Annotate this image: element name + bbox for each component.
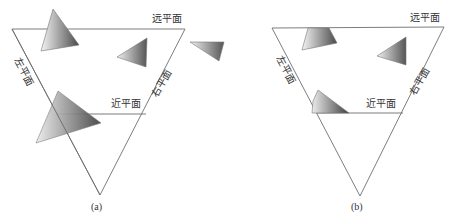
left-plane-label-a: 左平面 bbox=[12, 55, 37, 87]
right-plane-label-a: 右平面 bbox=[148, 67, 173, 99]
frustum-a bbox=[12, 29, 185, 195]
triangle-far-crossing bbox=[41, 9, 79, 51]
far-plane-label-b: 远平面 bbox=[410, 12, 440, 23]
left-plane-label-b: 左平面 bbox=[274, 53, 299, 85]
near-plane-label-b: 近平面 bbox=[366, 97, 396, 109]
caption-a: (a) bbox=[91, 201, 102, 213]
triangle-inside-b bbox=[377, 37, 406, 65]
far-plane-label-a: 远平面 bbox=[152, 13, 182, 24]
clipped-triangle-far bbox=[302, 28, 337, 50]
right-plane-label-b: 右平面 bbox=[406, 65, 431, 97]
caption-b: (b) bbox=[351, 201, 363, 213]
panel-a: 远平面 近平面 左平面 右平面 (a) bbox=[12, 9, 224, 213]
near-plane-label-a: 近平面 bbox=[111, 97, 141, 109]
triangle-outside-right bbox=[190, 42, 224, 61]
frustum-clipping-diagram: 远平面 近平面 左平面 右平面 (a) 远平面 近平面 左平面 右平面 (b) bbox=[0, 0, 454, 220]
triangle-inside bbox=[117, 38, 147, 67]
frustum-b bbox=[272, 27, 444, 196]
panel-b: 远平面 近平面 左平面 右平面 (b) bbox=[272, 12, 444, 213]
left-edge-overlay-a bbox=[12, 29, 100, 195]
clipped-triangle-near bbox=[312, 90, 349, 113]
